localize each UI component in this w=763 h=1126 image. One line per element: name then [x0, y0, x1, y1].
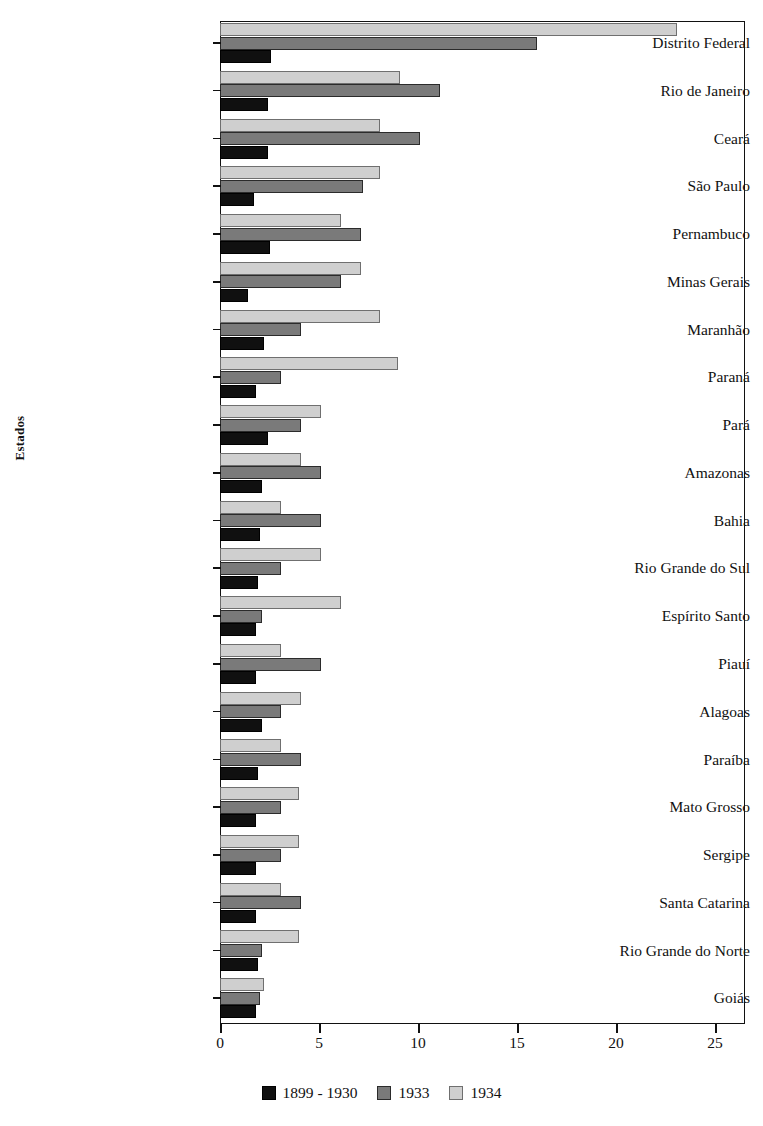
- bar: [220, 37, 537, 50]
- x-axis-tick-label: 10: [398, 1034, 438, 1052]
- bar: [220, 835, 299, 848]
- category-label: Espírito Santo: [547, 608, 763, 624]
- category-tick: [213, 185, 221, 187]
- category-tick: [213, 376, 221, 378]
- category-tick: [213, 806, 221, 808]
- category-tick: [213, 615, 221, 617]
- bar: [220, 337, 264, 350]
- bar: [220, 453, 301, 466]
- category-label: Distrito Federal: [547, 35, 763, 51]
- bar: [220, 1005, 256, 1018]
- category-label: Piauí: [547, 656, 763, 672]
- bar: [220, 514, 321, 527]
- bar: [220, 930, 299, 943]
- category-label: Amazonas: [547, 465, 763, 481]
- x-axis-tick: [220, 1024, 222, 1033]
- bar: [220, 180, 363, 193]
- bar: [220, 132, 420, 145]
- bar: [220, 658, 321, 671]
- bar: [220, 862, 256, 875]
- bar: [220, 753, 301, 766]
- x-axis-tick: [517, 1024, 519, 1033]
- bar: [220, 71, 400, 84]
- category-label: Alagoas: [547, 704, 763, 720]
- category-tick: [213, 950, 221, 952]
- bar: [220, 958, 258, 971]
- legend-swatch-icon: [262, 1086, 276, 1100]
- category-label: Minas Gerais: [547, 274, 763, 290]
- bar: [220, 310, 380, 323]
- category-tick: [213, 759, 221, 761]
- bar: [220, 978, 264, 991]
- category-label: Rio de Janeiro: [547, 83, 763, 99]
- x-axis-tick: [616, 1024, 618, 1033]
- bar: [220, 98, 268, 111]
- bar: [220, 228, 361, 241]
- bar: [220, 432, 268, 445]
- category-tick: [213, 90, 221, 92]
- category-label: Santa Catarina: [547, 895, 763, 911]
- bar: [220, 501, 281, 514]
- bar: [220, 576, 258, 589]
- category-tick: [213, 663, 221, 665]
- chart-legend: 1899 - 193019331934: [0, 1085, 763, 1101]
- y-axis-title: Estados: [12, 348, 28, 528]
- bar: [220, 528, 260, 541]
- bar: [220, 610, 262, 623]
- x-axis-tick-label: 25: [695, 1034, 735, 1052]
- bar: [220, 50, 271, 63]
- bar: [220, 146, 268, 159]
- bar: [220, 910, 256, 923]
- category-tick: [213, 997, 221, 999]
- category-tick: [213, 281, 221, 283]
- bar: [220, 466, 321, 479]
- category-tick: [213, 902, 221, 904]
- category-label: Maranhão: [547, 322, 763, 338]
- bar: [220, 385, 256, 398]
- bar: [220, 719, 262, 732]
- bar: [220, 166, 380, 179]
- bar: [220, 405, 321, 418]
- category-label: Rio Grande do Sul: [547, 560, 763, 576]
- bar: [220, 705, 281, 718]
- category-label: Paraíba: [547, 752, 763, 768]
- category-tick: [213, 854, 221, 856]
- category-label: São Paulo: [547, 178, 763, 194]
- category-label: Pernambuco: [547, 226, 763, 242]
- category-tick: [213, 711, 221, 713]
- category-tick: [213, 567, 221, 569]
- x-axis-tick: [319, 1024, 321, 1033]
- bar-chart: Estados Distrito FederalRio de JaneiroCe…: [0, 0, 763, 1126]
- legend-label: 1934: [470, 1085, 501, 1101]
- bar: [220, 883, 281, 896]
- category-label: Rio Grande do Norte: [547, 943, 763, 959]
- bar: [220, 644, 281, 657]
- bar: [220, 814, 256, 827]
- category-label: Mato Grosso: [547, 799, 763, 815]
- bar: [220, 23, 677, 36]
- bar: [220, 371, 281, 384]
- bar: [220, 692, 301, 705]
- legend-label: 1899 - 1930: [283, 1085, 358, 1101]
- bar: [220, 849, 281, 862]
- legend-item: 1934: [449, 1085, 501, 1101]
- x-axis-tick-label: 20: [596, 1034, 636, 1052]
- category-label: Sergipe: [547, 847, 763, 863]
- bar: [220, 241, 270, 254]
- category-tick: [213, 329, 221, 331]
- bar: [220, 767, 258, 780]
- bar: [220, 739, 281, 752]
- category-tick: [213, 472, 221, 474]
- bar: [220, 671, 256, 684]
- bar: [220, 548, 321, 561]
- bar: [220, 289, 248, 302]
- bar: [220, 896, 301, 909]
- bar: [220, 787, 299, 800]
- bar: [220, 801, 281, 814]
- category-tick: [213, 233, 221, 235]
- bar: [220, 84, 440, 97]
- bar: [220, 623, 256, 636]
- x-axis-tick-label: 15: [497, 1034, 537, 1052]
- bar: [220, 480, 262, 493]
- x-axis-tick: [418, 1024, 420, 1033]
